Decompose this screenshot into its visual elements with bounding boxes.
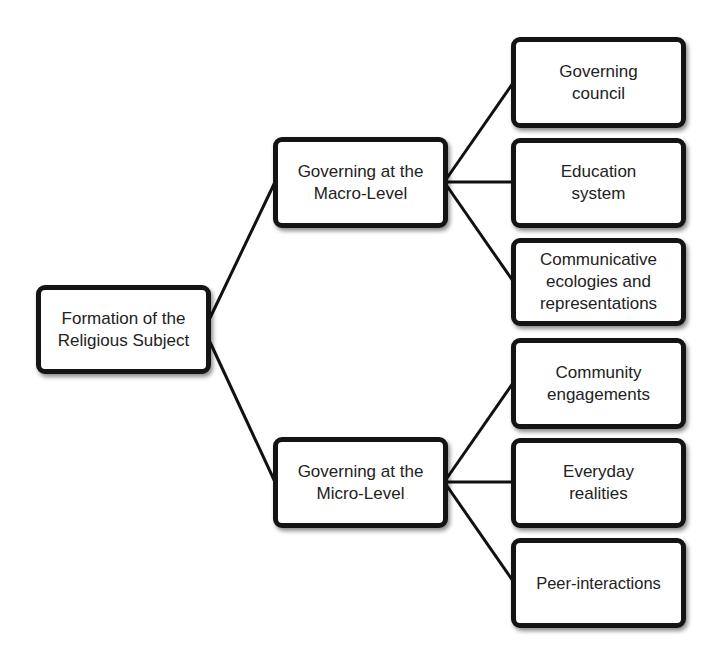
leaf-node-label: Everyday realities (563, 461, 634, 505)
root-node-formation-of-religious-subject: Formation of the Religious Subject (36, 285, 211, 374)
leaf-node-governing-council: Governing council (511, 37, 686, 128)
branch-node-macro-level: Governing at the Macro-Level (273, 137, 448, 228)
leaf-node-label: Governing council (559, 61, 637, 105)
connector-root-macro (210, 182, 275, 318)
connector-micro-community (447, 383, 513, 478)
diagram-canvas: Formation of the Religious Subject Gover… (0, 0, 721, 664)
leaf-node-communicative-ecologies: Communicative ecologies and representati… (511, 238, 686, 326)
leaf-node-education-system: Education system (511, 138, 686, 228)
leaf-node-label: Communicative ecologies and representati… (540, 249, 657, 315)
connector-root-micro (210, 342, 275, 482)
connector-micro-peer (447, 486, 513, 581)
branch-node-label: Governing at the Micro-Level (298, 461, 424, 505)
branch-node-label: Governing at the Macro-Level (298, 161, 424, 205)
connector-macro-council (447, 83, 513, 178)
leaf-node-everyday-realities: Everyday realities (511, 438, 686, 528)
connector-macro-communicative (447, 186, 513, 281)
leaf-node-community-engagements: Community engagements (511, 338, 686, 429)
leaf-node-label: Education system (561, 161, 637, 205)
root-node-label: Formation of the Religious Subject (58, 308, 189, 352)
branch-node-micro-level: Governing at the Micro-Level (273, 437, 448, 528)
leaf-node-peer-interactions: Peer-interactions (511, 538, 686, 628)
leaf-node-label: Community engagements (547, 362, 650, 406)
leaf-node-label: Peer-interactions (536, 572, 661, 594)
